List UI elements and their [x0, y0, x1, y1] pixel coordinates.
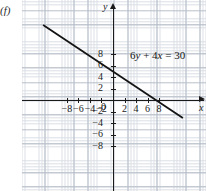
- plot-line-layer: [0, 0, 206, 191]
- equation-value: 30: [174, 49, 185, 61]
- equation-plus: +: [140, 49, 152, 61]
- line-equation-annotation: 6y + 4x = 30: [130, 49, 185, 61]
- equation-equals: =: [163, 49, 175, 61]
- line-6y-plus-4x-equals-30: [44, 25, 182, 117]
- graph-figure: (f) y x −8−6−4−22468 8642−2−4−6−8 0 6y +…: [0, 0, 206, 191]
